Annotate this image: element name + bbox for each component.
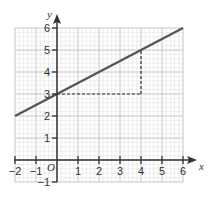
x-tick-label: 3	[117, 165, 123, 177]
y-tick-label: 6	[44, 22, 50, 34]
x-axis-label: x	[198, 160, 204, 172]
x-tick-label: 1	[75, 165, 81, 177]
x-tick-label: 2	[96, 165, 102, 177]
x-tick-label: 6	[180, 165, 186, 177]
x-tick-label: −2	[9, 165, 22, 177]
y-tick-label: 2	[44, 110, 50, 122]
axes	[14, 14, 197, 182]
origin-label: O	[47, 161, 55, 173]
y-tick-label: 1	[44, 132, 50, 144]
y-tick-label: 3	[44, 88, 50, 100]
y-tick-label: −1	[37, 176, 50, 188]
x-tick-label: 4	[138, 165, 144, 177]
coordinate-graph: −2−1123456−1123456 x y O	[0, 0, 211, 198]
x-tick-label: 5	[159, 165, 165, 177]
y-tick-label: 5	[44, 44, 50, 56]
y-axis-label: y	[46, 8, 52, 20]
y-tick-label: 4	[44, 66, 50, 78]
